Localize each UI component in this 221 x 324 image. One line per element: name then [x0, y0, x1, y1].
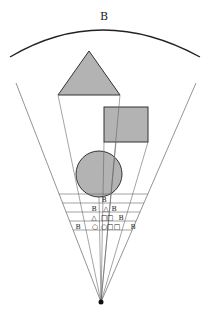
viewpoint-apex	[99, 300, 104, 305]
grid-cell-label: □	[114, 223, 121, 231]
grid-cell-label: △	[103, 205, 109, 213]
square-shape	[104, 107, 148, 142]
circle-shape	[76, 151, 122, 197]
grid-cell-label: □	[107, 223, 114, 231]
grid-cell-label: B	[91, 205, 96, 213]
grid-cell-label: B	[111, 205, 116, 213]
grid-cell-label: B	[75, 223, 80, 231]
grid-cell-label: □	[107, 214, 114, 222]
horizon-arc	[10, 30, 200, 57]
grid-cell-label: ○	[92, 223, 98, 231]
title-label: B	[100, 10, 108, 23]
grid-cell-label: B	[118, 214, 123, 222]
projection-ray	[58, 95, 101, 302]
grid-cell-label: B	[130, 223, 135, 231]
triangle-shape	[58, 51, 120, 95]
grid-cell-label: B	[101, 196, 106, 204]
perspective-diagram: BBB△B△□□BB○○□□B	[0, 0, 221, 324]
grid-cell-label: △	[91, 214, 97, 222]
